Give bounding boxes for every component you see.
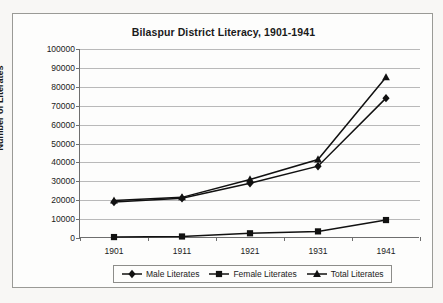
y-axis-tick-label: 60000	[5, 120, 75, 130]
chart-frame: Bilaspur District Literacy, 1901-1941 Nu…	[12, 13, 433, 288]
series-layer	[80, 49, 420, 238]
series-male-literates	[110, 94, 389, 206]
data-point-marker	[383, 217, 389, 223]
y-axis-tick-label: 50000	[5, 139, 75, 149]
legend-item[interactable]: Male Literates	[121, 269, 199, 279]
page-background: Bilaspur District Literacy, 1901-1941 Nu…	[0, 0, 443, 303]
x-axis-tick-label: 1921	[220, 246, 280, 256]
chart-title: Bilaspur District Literacy, 1901-1941	[13, 26, 434, 38]
legend-item-label: Total Literates	[331, 270, 384, 279]
y-axis-tick-label: 20000	[5, 195, 75, 205]
data-point-marker	[382, 73, 390, 80]
chart-legend: Male LiteratesFemale LiteratesTotal Lite…	[113, 265, 392, 283]
series-female-literates	[111, 217, 389, 240]
legend-triangle-marker-icon	[306, 269, 328, 279]
y-axis-tick-label: 80000	[5, 82, 75, 92]
x-axis-tick-label: 1941	[356, 246, 416, 256]
y-axis-tick-label: 70000	[5, 101, 75, 111]
plot-area: 0100002000030000400005000060000700008000…	[79, 49, 419, 238]
y-axis-tick-label: 30000	[5, 176, 75, 186]
data-point-marker	[111, 234, 117, 240]
data-point-marker	[315, 228, 321, 234]
x-axis-tick-mark	[420, 237, 421, 241]
legend-item[interactable]: Total Literates	[306, 269, 384, 279]
legend-item-label: Male Literates	[146, 270, 199, 279]
x-axis-tick-label: 1911	[152, 246, 212, 256]
x-axis-tick-label: 1901	[84, 246, 144, 256]
y-axis-tick-label: 100000	[5, 44, 75, 54]
y-axis-tick-label: 40000	[5, 157, 75, 167]
x-axis-tick-label: 1931	[288, 246, 348, 256]
legend-square-marker-icon	[208, 269, 230, 279]
data-point-marker	[179, 233, 185, 239]
y-axis-tick-label: 10000	[5, 214, 75, 224]
legend-diamond-marker-icon	[121, 269, 143, 279]
data-point-marker	[247, 230, 253, 236]
y-axis-tick-label: 0	[5, 233, 75, 243]
y-axis-tick-label: 90000	[5, 63, 75, 73]
legend-item[interactable]: Female Literates	[208, 269, 296, 279]
legend-item-label: Female Literates	[233, 270, 296, 279]
